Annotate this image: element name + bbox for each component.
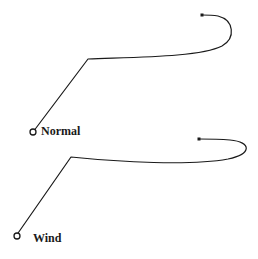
wind-path-line — [16, 139, 246, 236]
wind-end-marker-icon — [198, 138, 201, 141]
normal-path-line — [33, 15, 231, 132]
wind-start-marker-icon — [14, 233, 20, 239]
wind-label: Wind — [33, 232, 61, 244]
normal-end-marker-icon — [201, 14, 204, 17]
trajectory-normal — [30, 14, 231, 136]
normal-start-marker-icon — [30, 129, 36, 135]
trajectory-wind — [14, 138, 246, 240]
normal-label: Normal — [41, 125, 80, 137]
trajectory-diagram — [0, 0, 258, 259]
